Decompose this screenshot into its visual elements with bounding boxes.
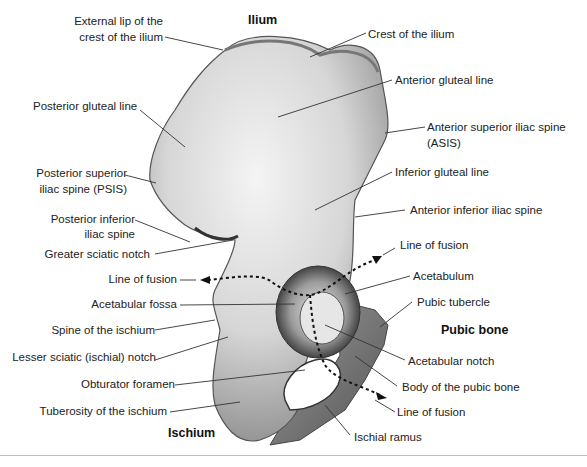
region-label-pubic-bone: Pubic bone xyxy=(441,323,508,337)
label-aiis: Anterior inferior iliac spine xyxy=(410,203,542,217)
label-external-lip-line2: crest of the ilium xyxy=(79,30,163,44)
region-label-ilium: Ilium xyxy=(248,13,277,27)
label-posterior-gluteal-line: Posterior gluteal line xyxy=(33,99,137,113)
label-acetabular-fossa: Acetabular fossa xyxy=(91,297,177,311)
region-label-ischium: Ischium xyxy=(168,426,215,440)
label-greater-sciatic-notch: Greater sciatic notch xyxy=(45,247,150,261)
label-tuberosity-of-ischium: Tuberosity of the ischium xyxy=(40,404,167,418)
label-acetabular-notch: Acetabular notch xyxy=(408,354,494,368)
label-spine-of-ischium: Spine of the ischium xyxy=(51,323,155,337)
label-psis-line2: iliac spine (PSIS) xyxy=(39,182,127,196)
label-line-of-fusion-upper: Line of fusion xyxy=(400,238,468,252)
label-obturator-foramen: Obturator foramen xyxy=(81,377,175,391)
label-asis-line1: Anterior superior iliac spine xyxy=(427,120,566,134)
label-lesser-sciatic-notch: Lesser sciatic (ischial) notch xyxy=(12,350,156,364)
label-psis-line1: Posterior superior xyxy=(36,166,127,180)
label-body-of-pubic-bone: Body of the pubic bone xyxy=(402,380,520,394)
label-piis-line2: iliac spine xyxy=(85,227,136,241)
label-acetabulum: Acetabulum xyxy=(413,269,474,283)
label-piis-line1: Posterior inferior xyxy=(51,212,135,226)
label-ischial-ramus: Ischial ramus xyxy=(354,430,422,444)
label-external-lip-line1: External lip of the xyxy=(74,14,163,28)
label-inferior-gluteal-line: Inferior gluteal line xyxy=(395,165,489,179)
bottom-divider xyxy=(0,455,587,456)
label-line-of-fusion-lower: Line of fusion xyxy=(397,405,465,419)
hip-bone-diagram: Ilium Pubic bone Ischium External lip of… xyxy=(0,0,587,467)
label-asis-line2: (ASIS) xyxy=(427,136,461,150)
label-crest-of-ilium: Crest of the ilium xyxy=(368,27,454,41)
label-pubic-tubercle: Pubic tubercle xyxy=(417,295,490,309)
label-line-of-fusion-left: Line of fusion xyxy=(109,272,177,286)
label-anterior-gluteal-line: Anterior gluteal line xyxy=(395,73,493,87)
